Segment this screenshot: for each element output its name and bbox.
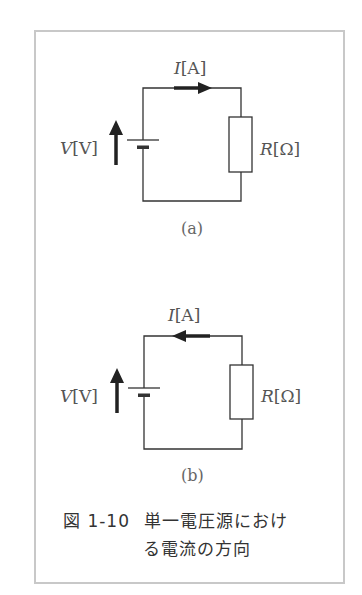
circuit-diagrams <box>0 0 362 595</box>
voltage-arrowhead-up-icon <box>110 368 124 383</box>
current-label-b: I[A] <box>168 307 200 324</box>
current-unit: [A] <box>181 58 207 78</box>
resistance-label-b: R[Ω] <box>261 388 301 405</box>
figure-caption-line2: る電流の方向 <box>143 541 251 558</box>
current-arrowhead-left-icon <box>172 330 186 342</box>
wire-b <box>144 336 242 449</box>
sub-label-b: (b) <box>181 468 204 484</box>
figure-number: 図 1-10 <box>63 511 130 531</box>
current-arrowhead-right-icon <box>198 82 212 94</box>
voltage-unit: [V] <box>72 138 98 158</box>
resistance-symbol: R <box>261 386 274 406</box>
sub-label-a: (a) <box>181 221 203 237</box>
circuit-b <box>110 330 253 449</box>
current-label-a: I[A] <box>174 60 206 77</box>
resistor-b <box>230 365 253 419</box>
figure-caption-line1: 図 1-10単一電圧源におけ <box>63 513 288 530</box>
voltage-label-a: V[V] <box>60 140 98 157</box>
voltage-arrowhead-up-icon <box>109 120 123 135</box>
resistance-symbol: R <box>260 139 273 159</box>
resistance-unit: [Ω] <box>273 139 300 159</box>
voltage-symbol: V <box>60 138 72 158</box>
current-symbol: I <box>168 305 175 325</box>
resistor-a <box>229 117 252 172</box>
resistance-unit: [Ω] <box>274 386 301 406</box>
battery-short-plate-b <box>138 394 150 398</box>
current-unit: [A] <box>175 305 201 325</box>
voltage-unit: [V] <box>72 386 98 406</box>
voltage-label-b: V[V] <box>60 388 98 405</box>
battery-short-plate-a <box>137 146 149 150</box>
voltage-symbol: V <box>60 386 72 406</box>
caption-text-1: 単一電圧源におけ <box>144 511 288 531</box>
wire-a <box>143 88 241 201</box>
circuit-a <box>109 82 252 201</box>
resistance-label-a: R[Ω] <box>260 141 300 158</box>
current-symbol: I <box>174 58 181 78</box>
